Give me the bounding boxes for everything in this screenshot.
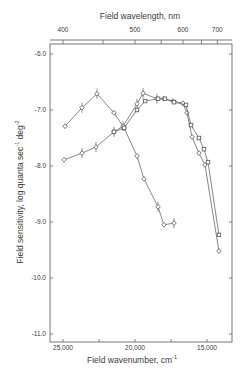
top-tick-label: 600: [178, 26, 189, 33]
square-marker: [189, 123, 193, 127]
square-marker: [206, 160, 210, 164]
sensitivity-chart: Field wavelength, nm 400500600700 -6.0-7…: [0, 0, 244, 377]
series-1: [63, 89, 176, 228]
square-marker: [202, 147, 206, 151]
diamond-marker: [162, 222, 166, 227]
square-marker: [135, 108, 139, 112]
square-marker: [172, 100, 176, 104]
square-marker: [122, 126, 126, 130]
y-tick-label: -8.0: [35, 162, 47, 169]
diamond-marker: [217, 249, 221, 254]
x-tick-label: 15,000: [197, 344, 217, 351]
y-tick-label: -7.0: [35, 106, 47, 113]
plot-frame: [50, 44, 232, 342]
diamond-marker: [172, 221, 176, 226]
y-tick-label: -6.0: [35, 50, 47, 57]
square-marker: [217, 233, 221, 237]
diamond-marker: [190, 134, 194, 139]
series-line: [114, 99, 219, 235]
square-marker: [112, 130, 116, 134]
y-tick-label: -9.0: [35, 218, 47, 225]
y-tick-label: -10.0: [31, 274, 46, 281]
top-tick-label: 700: [212, 26, 223, 33]
y-tick-label: -11.0: [32, 330, 47, 337]
square-marker: [163, 97, 167, 101]
diamond-marker: [142, 176, 146, 181]
x-axis-ticks: 25,00020,00015,000: [53, 339, 217, 351]
x-axis-title: Field wavenumber, cm-1: [87, 354, 177, 365]
y-axis-ticks: -6.0-7.0-8.0-9.0-10.0-11.0: [31, 50, 232, 337]
data-series: [62, 88, 221, 253]
square-marker: [197, 136, 201, 140]
series-line: [64, 93, 219, 251]
diamond-marker: [156, 204, 160, 209]
diamond-marker: [197, 151, 201, 156]
x-tick-label: 25,000: [53, 344, 73, 351]
y-axis-title: Field sensitivity, log quanta sec-1 deg-…: [14, 120, 25, 263]
square-marker: [143, 99, 147, 103]
square-marker: [184, 103, 188, 107]
top-axis-ticks: [63, 40, 217, 44]
diamond-marker: [135, 154, 139, 159]
diamond-marker: [80, 151, 84, 156]
top-axis-tick-labels: 400500600700: [58, 26, 224, 33]
diamond-marker: [141, 91, 145, 96]
x-tick-label: 20,000: [125, 344, 145, 351]
diamond-marker: [62, 157, 66, 162]
square-marker: [156, 97, 160, 101]
top-axis-title: Field wavelength, nm: [100, 11, 180, 21]
top-tick-label: 500: [130, 26, 141, 33]
top-tick-label: 400: [58, 26, 69, 33]
diamond-marker: [135, 101, 139, 106]
